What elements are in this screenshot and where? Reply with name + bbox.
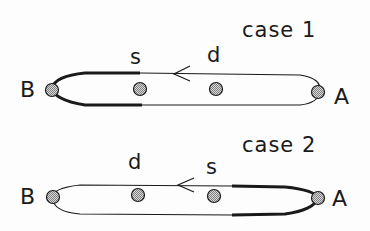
case-1-title: case 1 xyxy=(242,20,316,41)
case-1-nodes xyxy=(46,83,325,99)
case-2-label-s: s xyxy=(206,157,217,178)
case-2-node-a xyxy=(312,192,325,205)
case-1-label-b: B xyxy=(20,79,35,101)
case-1-node-d xyxy=(210,83,223,96)
case-2-nodes xyxy=(47,189,325,205)
case-1-label-s: s xyxy=(130,47,141,68)
case-2-node-b xyxy=(47,191,60,204)
diagram-canvas: case 1 s d B A case 2 d s B A xyxy=(0,0,370,231)
case-1-loop xyxy=(52,66,320,105)
case-2-node-d xyxy=(132,189,145,202)
case-1-label-a: A xyxy=(334,86,349,108)
case-1-node-b xyxy=(46,84,59,97)
case-2-label-d: d xyxy=(128,152,141,173)
case-1-label-d: d xyxy=(207,45,220,66)
case-1-node-a xyxy=(312,86,325,99)
case-2-title: case 2 xyxy=(242,135,316,156)
case-2-label-b: B xyxy=(20,186,35,208)
case-2-label-a: A xyxy=(332,188,347,210)
case-2-loop xyxy=(52,178,318,215)
case-2-arrow-icon xyxy=(178,178,194,192)
case-1-node-s xyxy=(134,83,147,96)
case-2-node-s xyxy=(208,190,221,203)
